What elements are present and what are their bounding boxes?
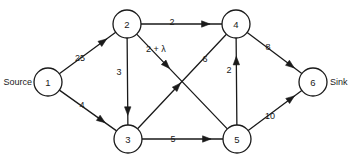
nodes-layer: 123456 (34, 10, 327, 153)
node-label-5: 5 (234, 134, 239, 145)
edge-label-4-to-6: 8 (265, 42, 270, 52)
node-3[interactable]: 3 (114, 125, 142, 153)
node-4[interactable]: 4 (222, 10, 250, 38)
node-label-1: 1 (45, 77, 50, 88)
network-diagram: 123456 254232 + λ652810 Source Sink (0, 0, 354, 158)
arrowhead-5-to-4 (233, 56, 239, 65)
edge-1-to-2 (59, 32, 115, 73)
arrowheads-layer (96, 21, 294, 142)
node-2[interactable]: 2 (113, 10, 141, 38)
arrowhead-1-to-3 (96, 115, 105, 123)
arrowhead-4-to-6 (286, 60, 295, 68)
edge-label-3-to-4: 6 (202, 54, 207, 64)
network-graph-svg: 123456 254232 + λ652810 Source Sink (0, 0, 354, 158)
edge-label-2-to-3: 3 (116, 67, 121, 77)
edge-label-1-to-3: 4 (79, 100, 84, 110)
edge-label-2-to-4: 2 (169, 17, 174, 27)
source-label: Source (3, 77, 32, 87)
edge-label-5-to-4: 2 (226, 65, 231, 75)
arrowhead-5-to-6 (286, 96, 295, 104)
node-6[interactable]: 6 (299, 68, 327, 96)
sink-label: Sink (330, 77, 348, 87)
arrowhead-1-to-2 (98, 39, 107, 47)
edge-label-2-to-5: 2 + λ (146, 44, 166, 54)
edge-5-to-4 (236, 38, 237, 125)
node-label-6: 6 (310, 77, 315, 88)
node-5[interactable]: 5 (223, 125, 251, 153)
node-label-2: 2 (124, 19, 129, 30)
node-label-4: 4 (233, 19, 238, 30)
edge-label-3-to-5: 5 (170, 134, 175, 144)
arrowhead-2-to-4 (202, 21, 211, 27)
edge-labels-layer: 254232 + λ652810 (75, 17, 275, 144)
edge-label-5-to-6: 10 (265, 111, 275, 121)
edge-1-to-3 (59, 90, 116, 131)
node-label-3: 3 (125, 134, 130, 145)
arrowhead-3-to-5 (203, 136, 212, 142)
node-1[interactable]: 1 (34, 68, 62, 96)
arrowhead-2-to-3 (125, 107, 131, 116)
edge-label-1-to-2: 25 (75, 53, 85, 63)
